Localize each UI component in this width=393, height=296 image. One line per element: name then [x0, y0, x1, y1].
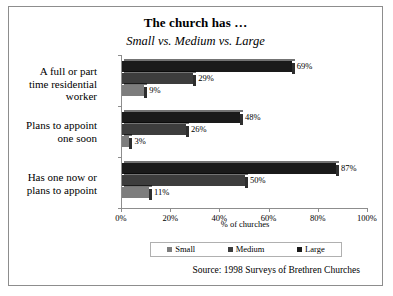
x-axis-tick	[219, 208, 220, 212]
bar-top-shadow	[124, 185, 152, 187]
category-label-1-line2: one soon	[0, 132, 97, 145]
legend-item-large[interactable]: Large	[297, 245, 325, 254]
bar-small[interactable]	[122, 85, 144, 96]
category-label-0-line3: worker	[0, 90, 97, 103]
bar-end-shadow	[193, 75, 196, 86]
chart-title: The church has …	[9, 15, 382, 31]
bar-value-label: 48%	[245, 112, 261, 122]
bar-small[interactable]	[122, 187, 149, 198]
bar-end-shadow	[336, 165, 339, 176]
y-axis-tick	[118, 157, 121, 158]
bar-value-label: 9%	[149, 85, 160, 95]
bar-end-shadow	[292, 63, 295, 74]
y-axis-tick	[118, 55, 121, 56]
bar-value-label: 26%	[191, 124, 207, 134]
bar-end-shadow	[144, 87, 147, 98]
source-note: Source: 1998 Surveys of Brethren Churche…	[9, 265, 382, 275]
bar-end-shadow	[186, 126, 189, 137]
bar-end-shadow	[149, 189, 152, 200]
bar-top-shadow	[124, 71, 196, 73]
bar-top-shadow	[124, 161, 339, 163]
x-axis-tick	[318, 208, 319, 212]
category-label-2-line2: plans to appoint	[0, 184, 97, 197]
bar-value-label: 3%	[134, 136, 145, 146]
x-axis-line	[121, 208, 367, 209]
category-label-2-line1: Has one now or	[0, 171, 97, 184]
category-label-0: A full or part time residential worker	[0, 65, 97, 103]
legend-swatch-icon	[297, 247, 302, 252]
x-axis-tick	[269, 208, 270, 212]
category-label-0-line2: time residential	[0, 78, 97, 91]
chart-subtitle: Small vs. Medium vs. Large	[9, 34, 382, 49]
x-axis-tick	[367, 208, 368, 212]
legend-label: Large	[305, 245, 325, 254]
chart-frame: The church has … Small vs. Medium vs. La…	[8, 6, 383, 286]
legend-label: Medium	[236, 245, 265, 254]
category-label-1: Plans to appoint one soon	[0, 119, 97, 144]
bar-small[interactable]	[122, 136, 129, 147]
category-label-0-line1: A full or part	[0, 65, 97, 78]
legend-item-medium[interactable]: Medium	[228, 245, 265, 254]
bar-value-label: 87%	[341, 163, 357, 173]
bar-top-shadow	[124, 134, 132, 136]
category-label-1-line1: Plans to appoint	[0, 119, 97, 132]
legend-item-small[interactable]: Small	[167, 245, 195, 254]
bar-value-label: 29%	[198, 73, 214, 83]
bar-value-label: 69%	[297, 61, 313, 71]
bar-top-shadow	[124, 83, 147, 85]
bar-end-shadow	[129, 138, 132, 149]
bar-end-shadow	[245, 177, 248, 188]
bar-value-label: 50%	[250, 175, 266, 185]
plot-area: 0%20%40%60%80%100% 69%29%9%48%26%3%87%50…	[121, 55, 371, 208]
bar-top-shadow	[124, 173, 248, 175]
chart-legend: SmallMediumLarge	[150, 242, 342, 257]
bar-end-shadow	[240, 114, 243, 125]
bar-value-label: 11%	[154, 187, 169, 197]
x-axis-tick	[170, 208, 171, 212]
bar-top-shadow	[124, 59, 295, 61]
legend-label: Small	[175, 245, 195, 254]
bar-top-shadow	[124, 110, 243, 112]
legend-swatch-icon	[228, 247, 233, 252]
x-axis-tick	[121, 208, 122, 212]
legend-swatch-icon	[167, 247, 172, 252]
bar-top-shadow	[124, 122, 189, 124]
x-axis-title: % of churches	[121, 219, 369, 229]
y-axis-tick	[118, 106, 121, 107]
category-label-2: Has one now or plans to appoint	[0, 171, 97, 196]
